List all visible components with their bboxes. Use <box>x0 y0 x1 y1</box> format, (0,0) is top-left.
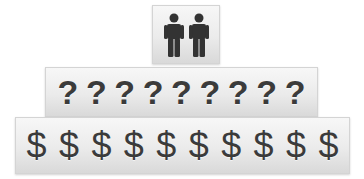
people-group <box>164 13 209 57</box>
pyramid-bottom-tier: $ $ $ $ $ $ $ $ $ $ <box>15 117 350 174</box>
dollar-sign-icon: $ <box>59 128 79 164</box>
person-icon <box>164 13 184 57</box>
person-icon <box>189 13 209 57</box>
question-mark-icon: ? <box>143 75 164 109</box>
question-mark-icon: ? <box>199 75 220 109</box>
dollar-sign-icon: $ <box>254 128 274 164</box>
dollar-sign-icon: $ <box>318 128 338 164</box>
question-mark-icon: ? <box>228 75 249 109</box>
question-mark-row: ? ? ? ? ? ? ? ? ? <box>58 75 306 109</box>
question-mark-icon: ? <box>285 75 306 109</box>
question-mark-icon: ? <box>256 75 277 109</box>
dollar-sign-icon: $ <box>221 128 241 164</box>
dollar-sign-icon: $ <box>156 128 176 164</box>
dollar-sign-icon: $ <box>189 128 209 164</box>
question-mark-icon: ? <box>114 75 135 109</box>
dollar-sign-icon: $ <box>124 128 144 164</box>
dollar-sign-row: $ $ $ $ $ $ $ $ $ $ <box>27 128 339 164</box>
question-mark-icon: ? <box>171 75 192 109</box>
dollar-sign-icon: $ <box>286 128 306 164</box>
dollar-sign-icon: $ <box>91 128 111 164</box>
question-mark-icon: ? <box>86 75 107 109</box>
pyramid-middle-tier: ? ? ? ? ? ? ? ? ? <box>45 67 318 117</box>
dollar-sign-icon: $ <box>27 128 47 164</box>
pyramid-top-tier <box>152 5 220 64</box>
question-mark-icon: ? <box>58 75 79 109</box>
